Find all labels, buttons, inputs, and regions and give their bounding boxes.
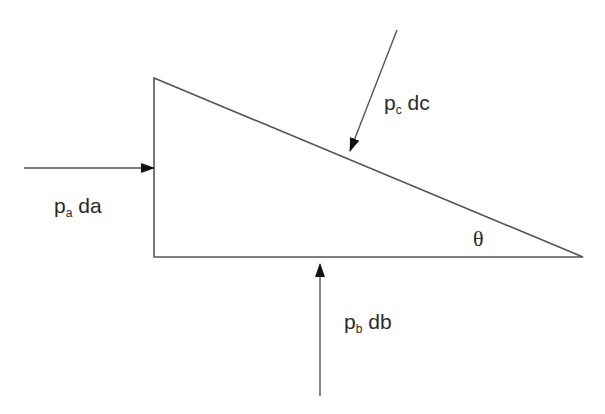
wedge-diagram: pa da pc dc pb db θ	[0, 0, 605, 414]
label-angle-theta: θ	[473, 226, 484, 251]
label-force-a: pa da	[54, 194, 102, 220]
label-force-c: pc dc	[384, 91, 430, 117]
label-force-b: pb db	[344, 310, 392, 336]
